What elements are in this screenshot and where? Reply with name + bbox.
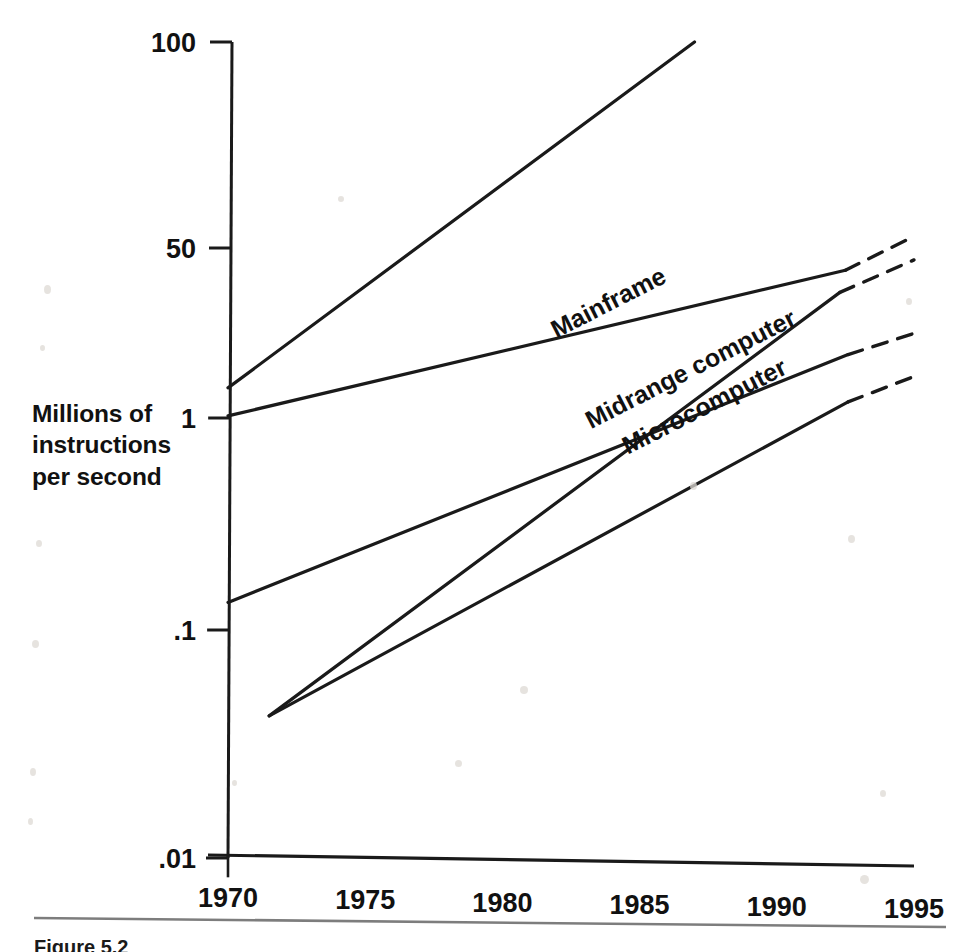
scan-speck xyxy=(860,875,869,884)
scan-speck xyxy=(232,780,237,786)
series-projection-4 xyxy=(848,377,914,402)
y-tick-label: .01 xyxy=(158,844,196,874)
y-tick-label: 100 xyxy=(151,28,196,58)
y-tick-label: .1 xyxy=(173,616,196,646)
series-line-0 xyxy=(228,42,695,388)
y-tick-label: 50 xyxy=(166,234,196,264)
x-tick-label: 1970 xyxy=(198,883,258,913)
y-axis-title-line-3: per second xyxy=(32,461,197,492)
scan-speck xyxy=(30,768,36,776)
y-axis-title: Millions of instructions per second xyxy=(32,398,197,492)
scan-speck xyxy=(455,760,462,767)
x-tick-labels: 197019751980198519901995 xyxy=(198,883,944,924)
x-tick-label: 1975 xyxy=(335,885,395,915)
series-projection-1 xyxy=(845,236,914,270)
scan-speck xyxy=(338,196,344,202)
y-axis-title-line-1: Millions of xyxy=(32,398,197,429)
series-projection-3 xyxy=(848,333,914,354)
scan-speck xyxy=(848,535,855,543)
figure-caption: Figure 5.2 xyxy=(34,936,734,952)
caption-divider xyxy=(34,918,946,927)
series-line-4 xyxy=(269,402,848,716)
x-tick-label: 1985 xyxy=(610,890,670,920)
series-lines xyxy=(228,42,914,716)
scan-speck xyxy=(28,818,33,825)
scan-speck xyxy=(690,482,697,490)
series-projection-2 xyxy=(840,260,914,293)
scan-speck xyxy=(40,345,45,351)
chart-axes xyxy=(206,42,914,877)
y-axis-title-line-2: instructions xyxy=(32,429,197,460)
scan-speck xyxy=(520,686,528,694)
series-line-2 xyxy=(269,292,840,716)
series-label-mainframe: Mainframe xyxy=(546,261,670,343)
scan-speck xyxy=(880,790,886,797)
x-tick-label: 1980 xyxy=(472,888,532,918)
x-tick-label: 1995 xyxy=(884,894,944,924)
scan-speck xyxy=(44,285,51,294)
scan-speck xyxy=(36,540,42,547)
scan-speck xyxy=(906,298,912,305)
x-tick-label: 1990 xyxy=(747,892,807,922)
figure-container: 100501.1.01 197019751980198519901995 Mai… xyxy=(0,0,954,952)
scan-speck xyxy=(32,640,39,648)
